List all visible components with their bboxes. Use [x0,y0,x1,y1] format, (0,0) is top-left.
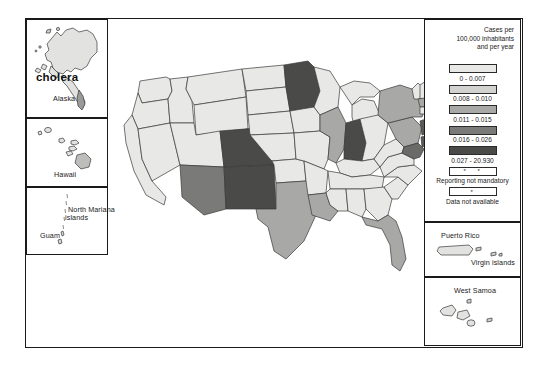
legend-entry-5: * * Reporting not mandatory [425,167,520,186]
map-plate: Alaska Hawaii [0,0,548,365]
page-title: cholera [36,71,78,83]
legend-entry-1: 0.008 - 0.010 [425,85,520,104]
legend-label-5: Reporting not mandatory [436,177,509,185]
inset-label-guam: Guam [40,232,60,240]
asterisk-icon: * [464,168,466,174]
inset-label-hawaii: Hawaii [54,171,76,179]
inset-label-north-mariana-2: islands [65,214,88,222]
legend-header-line-1: Cases per [456,26,514,35]
inset-puerto-rico: Puerto Rico Virgin islands [424,222,521,277]
asterisk-icon: * [471,188,473,194]
inset-west-samoa: West Samoa [424,277,521,346]
legend-swatch-4 [449,146,497,155]
legend-label-3: 0.016 - 0.026 [453,136,492,144]
legend-swatch-2 [449,105,497,114]
plate-frame: Alaska Hawaii [25,18,523,348]
state-arizona [180,165,226,215]
inset-label-virgin-islands: Virgin islands [471,259,515,267]
inset-guam-mariana: North Mariana islands Guam [26,187,108,255]
us-choropleth-map [108,19,424,346]
us-states-svg [108,19,424,346]
state-nebraska [248,111,294,135]
state-iowa [290,107,320,133]
inset-label-west-samoa: West Samoa [454,287,496,295]
inset-hawaii: Hawaii [26,118,108,187]
legend-header-line-3: and per year [456,43,514,52]
state-oklahoma [272,159,306,183]
legend-swatch-1 [449,85,497,94]
state-alabama [346,189,366,217]
state-north-dakota [242,65,286,91]
legend-swatch-5: * * [449,167,497,176]
legend-entry-3: 0.016 - 0.026 [425,126,520,145]
legend-entry-4: 0.027 - 20.930 [425,146,520,165]
inset-label-alaska: Alaska [53,95,75,103]
legend-header: Cases per 100,000 inhabitants and per ye… [456,26,514,52]
legend-entry-2: 0.011 - 0.015 [425,105,520,124]
legend-entries: 0 - 0.007 0.008 - 0.010 0.011 - 0.015 0.… [425,64,520,208]
legend-label-0: 0 - 0.007 [459,75,485,83]
inset-alaska: Alaska [26,19,108,118]
inset-label-puerto-rico: Puerto Rico [441,232,480,240]
legend-label-1: 0.008 - 0.010 [453,95,492,103]
legend-entry-0: 0 - 0.007 [425,64,520,83]
legend-label-6: Data not available [446,198,499,206]
legend-label-2: 0.011 - 0.015 [453,116,491,124]
legend-swatch-0 [449,64,497,73]
legend-swatch-3 [449,126,497,135]
legend-swatch-6: * [449,187,497,196]
state-south-dakota [246,87,290,115]
legend-label-4: 0.027 - 20.930 [451,157,494,165]
legend-panel: Cases per 100,000 inhabitants and per ye… [424,19,521,222]
asterisk-icon: * [478,168,480,174]
state-florida [362,215,406,271]
legend-entry-6: * Data not available [425,187,520,206]
legend-header-line-2: 100,000 inhabitants [456,35,514,44]
state-new-mexico [224,165,276,209]
